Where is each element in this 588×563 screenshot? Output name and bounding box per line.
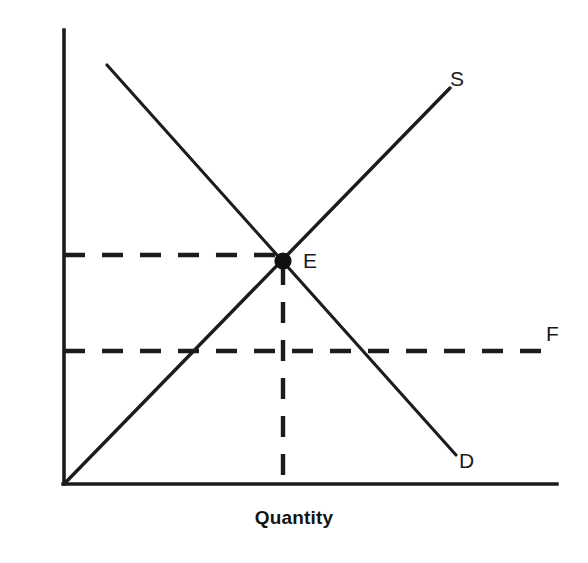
supply-curve-label: S [450,68,464,89]
supply-demand-chart: S D E F Price Quantity [0,0,588,563]
demand-curve-label: D [459,450,474,471]
y-axis-title: Price [0,241,30,331]
x-axis-title: Quantity [0,508,588,527]
price-ceiling-label: F [546,323,559,344]
equilibrium-point-label: E [303,250,317,271]
equilibrium-point-marker [274,252,291,269]
chart-canvas [0,0,588,563]
supply-curve [64,88,450,484]
